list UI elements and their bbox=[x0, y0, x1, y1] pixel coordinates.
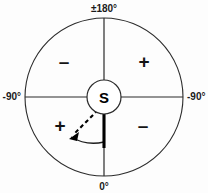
quadrant-sign-lower-left: + bbox=[54, 115, 65, 136]
quadrant-sign-upper-left: – bbox=[59, 51, 70, 72]
quadrant-sign-lower-right: – bbox=[138, 115, 149, 136]
axis-label-top: ±180° bbox=[91, 3, 117, 14]
center-label-s: S bbox=[99, 89, 109, 106]
axis-label-left: -90° bbox=[3, 91, 21, 102]
bearing-ray-dashed bbox=[74, 110, 98, 134]
quadrant-sign-upper-right: + bbox=[138, 51, 149, 72]
axis-label-right: -90° bbox=[187, 91, 205, 102]
diagram-canvas: S – + + – ±180° -90° -90° 0° bbox=[0, 0, 208, 193]
axis-label-bottom: 0° bbox=[99, 181, 109, 192]
bearing-convention-diagram: S – + + – ±180° -90° -90° 0° bbox=[0, 0, 208, 193]
